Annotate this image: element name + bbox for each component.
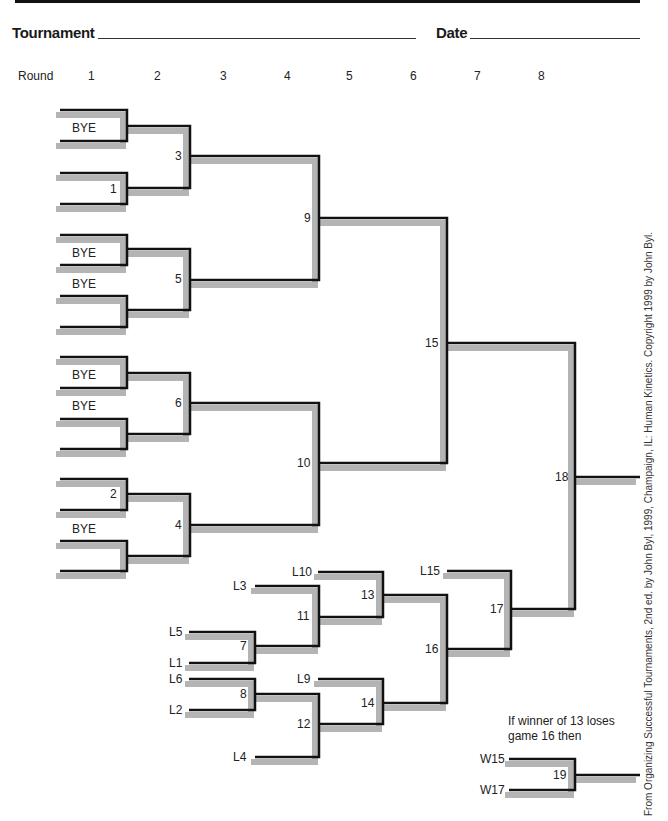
- game-label: BYE: [72, 246, 96, 260]
- game-label: L5: [169, 625, 182, 639]
- bracket-shadow: [186, 408, 315, 530]
- game-label: 1: [110, 182, 117, 196]
- game-label: 10: [297, 456, 310, 470]
- game-label: W17: [480, 783, 505, 797]
- game-label: 3: [175, 149, 182, 163]
- game-label: L1: [169, 656, 182, 670]
- game-label: BYE: [72, 368, 96, 382]
- game-label: 5: [175, 272, 182, 286]
- game-label: L15: [420, 564, 440, 578]
- bracket-shadow: [186, 161, 315, 285]
- game-label: L6: [169, 672, 182, 686]
- game-label: BYE: [72, 399, 96, 413]
- game-label: 13: [361, 588, 374, 602]
- game-label: 14: [361, 696, 374, 710]
- game-label: L2: [169, 703, 182, 717]
- note-line-1: If winner of 13 loses: [508, 714, 615, 729]
- game-label: 7: [240, 639, 247, 653]
- game-label: 2: [110, 487, 117, 501]
- game-label: 6: [175, 396, 182, 410]
- note-line-2: game 16 then: [508, 729, 615, 744]
- game-label: 19: [553, 768, 566, 782]
- game-label: 12: [297, 717, 310, 731]
- bracket-diagram: [0, 0, 668, 821]
- game-label: 4: [175, 518, 182, 532]
- bracket-lines: [60, 110, 640, 790]
- game-label: 9: [304, 211, 311, 225]
- game-label: 15: [425, 336, 438, 350]
- game-label: L10: [292, 565, 312, 579]
- game-label: BYE: [72, 121, 96, 135]
- game-label: BYE: [72, 522, 96, 536]
- game-label: BYE: [72, 277, 96, 291]
- bracket-shadow: [315, 223, 443, 468]
- game-label: 18: [555, 470, 568, 484]
- game-label: L4: [233, 750, 246, 764]
- game-label: 11: [297, 609, 309, 623]
- copyright-credit: From Organizing Successful Tournaments, …: [643, 232, 654, 816]
- game-label: 17: [490, 602, 503, 616]
- game-label: W15: [480, 752, 505, 766]
- conditional-note: If winner of 13 loses game 16 then: [508, 714, 615, 744]
- bracket-line: [190, 156, 319, 280]
- game-label: 8: [240, 687, 247, 701]
- game-label: L9: [297, 672, 310, 686]
- game-label: 16: [425, 642, 438, 656]
- game-label: L3: [233, 579, 246, 593]
